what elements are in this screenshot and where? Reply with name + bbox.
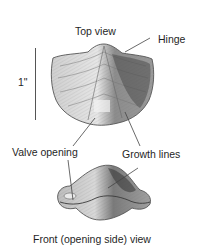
scale-label: 1": [18, 76, 28, 88]
front-view-caption: Front (opening side) view: [33, 233, 151, 245]
front-view-shell: [58, 165, 151, 220]
valve-opening-label: Valve opening: [12, 146, 78, 158]
top-view-shell: [51, 44, 153, 125]
growth-lines-label: Growth lines: [122, 148, 180, 160]
hinge-label: Hinge: [158, 33, 185, 45]
top-view-label: Top view: [75, 25, 116, 37]
hinge-leader: [125, 38, 150, 52]
